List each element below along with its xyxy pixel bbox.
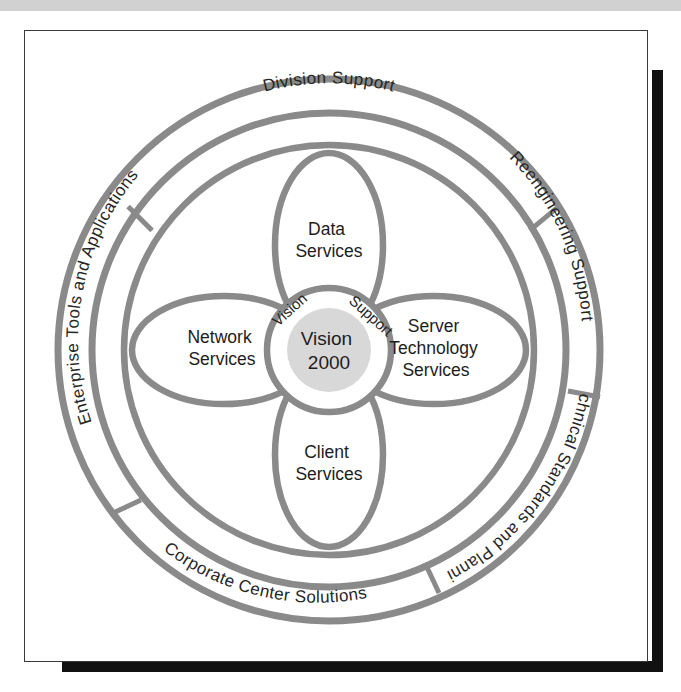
page-canvas: Vision 2000 services and support wheel	[0, 0, 681, 692]
petal-label-data-services-line1: Data	[308, 219, 345, 239]
petal-label-server-technology-services-line3: Services	[402, 360, 469, 380]
divider-technical-corporate	[425, 563, 439, 593]
petal-label-client-services-line2: Services	[295, 464, 362, 484]
petal-label-server-technology-services: Server Technology Services	[389, 316, 482, 380]
divider-corporate-enterprise	[111, 500, 141, 514]
hub-label-line2: 2000	[308, 352, 350, 373]
petal-label-data-services: Data Services	[295, 219, 362, 261]
petal-label-network-services-line1: Network	[187, 327, 251, 347]
petal-label-server-technology-services-line1: Server	[408, 316, 460, 336]
ring-label-reengineering-support: Reengineering Support	[506, 148, 597, 323]
petal-label-network-services-line2: Services	[188, 349, 255, 369]
hub-label-line1: Vision	[301, 328, 352, 349]
vision-2000-wheel-diagram: Vision 2000 services and support wheel	[24, 30, 648, 662]
petal-label-network-services: Network Services	[187, 327, 256, 369]
hub-inner-disc	[287, 308, 371, 392]
ring-label-division-support: Division Support	[261, 68, 397, 95]
petal-label-server-technology-services-line2: Technology	[389, 338, 478, 358]
scan-edge-band	[0, 0, 681, 11]
ring-label-reengineering-support-text: Reengineering Support	[506, 148, 597, 323]
petal-label-client-services: Client Services	[295, 442, 362, 484]
ring-label-division-support-text: Division Support	[261, 68, 397, 95]
petal-label-data-services-line2: Services	[295, 241, 362, 261]
figure-drop-shadow-bottom	[62, 661, 663, 672]
petal-label-client-services-line1: Client	[304, 442, 349, 462]
figure-drop-shadow-right	[652, 70, 663, 670]
